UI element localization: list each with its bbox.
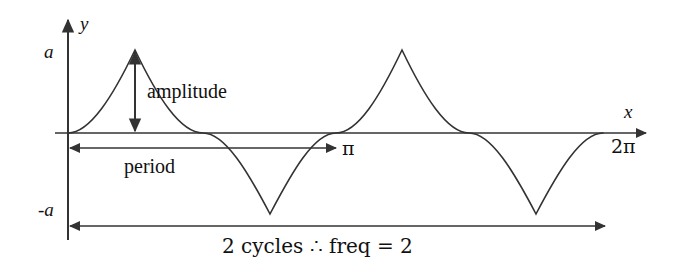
- y-tick-label-a: a: [44, 42, 54, 61]
- x-tick-label-two-pi: 2π: [611, 137, 636, 156]
- x-axis-label: x: [624, 102, 632, 121]
- figure-caption: 2 cycles ∴ freq = 2: [222, 236, 413, 256]
- sine-wave-figure: y x a -a amplitude period π 2π 2 cycles …: [0, 0, 676, 266]
- y-axis-label: y: [80, 14, 88, 33]
- figure-canvas: [0, 0, 676, 266]
- y-tick-label-negative-a: -a: [38, 200, 54, 219]
- amplitude-label: amplitude: [147, 81, 227, 101]
- sine-wave-curve: [68, 50, 603, 214]
- x-tick-label-pi: π: [342, 139, 355, 158]
- period-label: period: [124, 156, 175, 176]
